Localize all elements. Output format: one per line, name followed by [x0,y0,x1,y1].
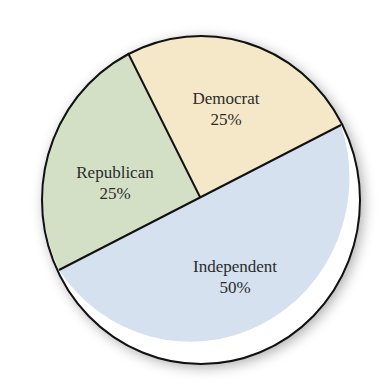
value-republican: 25% [99,184,130,203]
pie-chart-svg: Democrat 25% Republican 25% Independent … [0,0,388,382]
pie-chart: Democrat 25% Republican 25% Independent … [0,0,388,382]
value-democrat: 25% [210,110,241,129]
label-democrat: Democrat [192,89,259,108]
value-independent: 50% [219,278,250,297]
label-republican: Republican [76,163,154,182]
label-independent: Independent [193,257,277,276]
